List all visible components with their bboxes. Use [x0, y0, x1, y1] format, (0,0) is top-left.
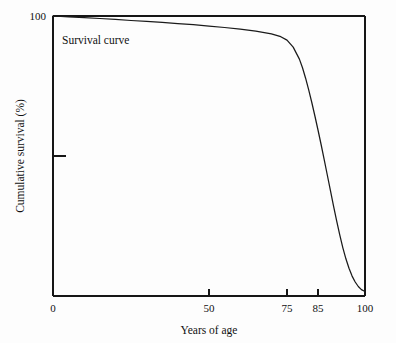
- survival-curve-annotation: Survival curve: [62, 34, 129, 46]
- plot-frame: [53, 16, 365, 296]
- x-axis-ticks: [53, 289, 365, 296]
- x-tick-label-75: 75: [282, 302, 294, 314]
- y-tick-label-100: 100: [30, 10, 47, 22]
- x-axis-title: Years of age: [181, 324, 238, 337]
- chart-page: 100 0 50 75 85 100 Survival curve Cumula…: [0, 0, 396, 343]
- x-tick-label-50: 50: [204, 302, 216, 314]
- survival-curve-path: [53, 16, 365, 292]
- x-tick-label-100: 100: [357, 302, 374, 314]
- y-axis-title: Cumulative survival (%): [14, 99, 27, 213]
- x-tick-label-0: 0: [50, 302, 56, 314]
- survival-curve-chart: 100 0 50 75 85 100 Survival curve Cumula…: [0, 0, 396, 343]
- x-tick-label-85: 85: [313, 302, 325, 314]
